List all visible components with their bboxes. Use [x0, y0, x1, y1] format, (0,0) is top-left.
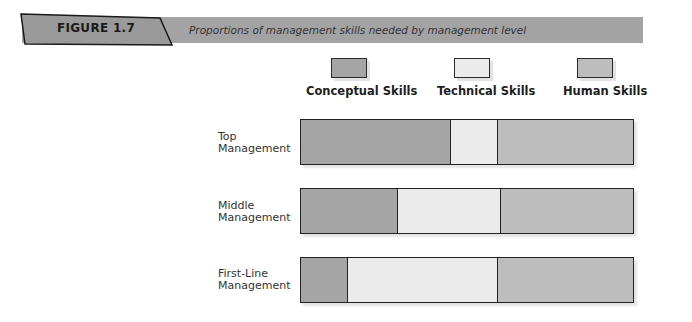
- segment-conceptual: [301, 120, 450, 164]
- row-label-line2: Management: [218, 212, 290, 224]
- bar-first-line-management: [300, 257, 634, 303]
- legend-label-technical: Technical Skills: [437, 84, 535, 98]
- row-label-middle: Middle Management: [218, 200, 290, 224]
- figure-caption: Proportions of management skills needed …: [189, 17, 526, 43]
- legend-swatch-conceptual: [331, 58, 367, 78]
- segment-technical: [397, 189, 500, 233]
- legend-swatch-technical: [454, 58, 490, 78]
- segment-human: [497, 120, 633, 164]
- bar-top-management: [300, 119, 634, 165]
- segment-conceptual: [301, 189, 397, 233]
- segment-technical: [450, 120, 496, 164]
- legend-swatch-human: [577, 58, 613, 78]
- row-label-line2: Management: [218, 280, 290, 292]
- segment-human: [500, 189, 633, 233]
- legend-label-conceptual: Conceptual Skills: [306, 84, 417, 98]
- figure-label: FIGURE 1.7: [20, 13, 172, 46]
- row-label-line2: Management: [218, 143, 290, 155]
- figure-number-tab: FIGURE 1.7: [20, 13, 172, 46]
- segment-technical: [347, 258, 496, 302]
- bar-middle-management: [300, 188, 634, 234]
- segment-conceptual: [301, 258, 347, 302]
- legend-label-human: Human Skills: [563, 84, 647, 98]
- row-label-top: Top Management: [218, 131, 290, 155]
- segment-human: [497, 258, 633, 302]
- row-label-first-line: First-Line Management: [218, 268, 290, 292]
